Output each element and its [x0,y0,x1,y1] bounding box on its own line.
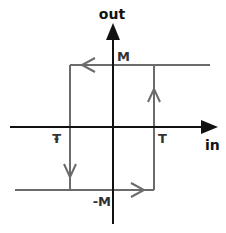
x-axis-label: in [205,137,220,153]
y-axis-label: out [99,6,126,22]
y-axis-arrowhead-icon [106,23,120,40]
upper-level-label: M [117,49,130,64]
hysteresis-diagram: out in M -M T -T [0,0,226,233]
lower-level-label: -M [93,194,111,209]
lower-threshold-label: -T [52,131,61,146]
x-axis-arrowhead-icon [201,120,218,134]
upper-threshold-label: T [158,131,167,146]
